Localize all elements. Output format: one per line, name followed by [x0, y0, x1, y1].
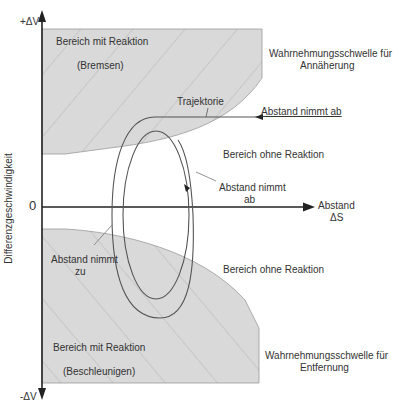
abstand-ab-leader [196, 172, 216, 181]
distance-decreasing-top-label: Abstand nimmt ab [261, 106, 342, 118]
lower-reaction-label: Bereich mit Reaktion [53, 342, 145, 354]
distance-decreasing-mid-line2: ab [244, 194, 255, 206]
lower-no-reaction-label: Bereich ohne Reaktion [223, 264, 324, 276]
upper-reaction-label: Bereich mit Reaktion [56, 36, 148, 48]
x-axis-arrow-icon [303, 203, 315, 212]
origin-label: 0 [29, 200, 36, 212]
x-axis-title-line1: Abstand [318, 200, 355, 212]
trajectory-label: Trajektorie [177, 96, 224, 108]
removal-threshold-line2: Entfernung [300, 362, 349, 374]
distance-increasing-line1: Abstand nimmt [51, 254, 118, 266]
distance-increasing-line2: zu [75, 266, 86, 278]
y-top-label: +ΔV [20, 16, 39, 28]
distance-decreasing-mid-line1: Abstand nimmt [219, 182, 286, 194]
removal-threshold-line1: Wahrnehmungsschwelle für [265, 350, 388, 362]
upper-no-reaction-label: Bereich ohne Reaktion [223, 149, 324, 161]
approach-threshold-line2: Annäherung [300, 60, 355, 72]
y-bottom-label: -ΔV [20, 391, 37, 403]
upper-reaction-sublabel: (Bremsen) [77, 60, 124, 72]
approach-threshold-line1: Wahrnehmungsschwelle für [269, 48, 392, 60]
y-axis-down-arrow-icon [38, 388, 46, 400]
x-axis-title-line2: ΔS [330, 212, 343, 224]
lower-reaction-sublabel: (Beschleunigen) [63, 366, 135, 378]
lower-reaction-region [42, 229, 259, 383]
y-axis-title: Differenzgeschwindigkeit [3, 149, 14, 269]
